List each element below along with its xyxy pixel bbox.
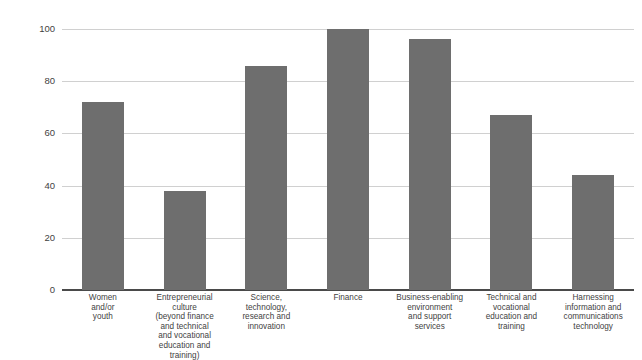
- x-axis-label-line: Finance: [309, 293, 387, 303]
- x-axis-label-line: Business-enabling: [391, 293, 469, 303]
- x-axis-label-line: training: [473, 322, 551, 332]
- x-axis-label: Womenand/oryouth: [62, 293, 144, 322]
- x-axis-label: Entrepreneurial culture(beyond financean…: [144, 293, 226, 360]
- bar[interactable]: [490, 115, 532, 290]
- x-axis-label-line: and vocational: [146, 331, 224, 341]
- x-axis-label-line: Harnessing: [554, 293, 632, 303]
- x-axis-label: Science,technology,research andinnovatio…: [225, 293, 307, 331]
- y-tick-label-0: 0: [9, 285, 55, 295]
- x-axis-label-line: Technical and: [473, 293, 551, 303]
- x-axis-label-line: Women: [64, 293, 142, 303]
- y-tick-label-40: 40: [9, 181, 55, 191]
- bar-slot: [225, 29, 307, 290]
- x-axis-label: Business-enablingenvironmentand supports…: [389, 293, 471, 331]
- bar[interactable]: [572, 175, 614, 290]
- x-axis-label-line: research and: [227, 312, 305, 322]
- bar-slot: [471, 29, 553, 290]
- y-tick-label-100: 100: [9, 24, 55, 34]
- x-axis-label-line: and/or: [64, 303, 142, 313]
- x-axis-label-line: information and: [554, 303, 632, 313]
- bar[interactable]: [409, 39, 451, 290]
- bar[interactable]: [164, 191, 206, 290]
- x-axis-label-line: services: [391, 322, 469, 332]
- x-axis-label-line: communications: [554, 312, 632, 322]
- bar-slot: [144, 29, 226, 290]
- x-axis-label-line: and support: [391, 312, 469, 322]
- bar-slot: [62, 29, 144, 290]
- x-axis-label-line: youth: [64, 312, 142, 322]
- x-axis-category-labels: Womenand/oryouthEntrepreneurial culture(…: [62, 293, 634, 360]
- x-axis-label-line: Science,: [227, 293, 305, 303]
- y-tick-label-80: 80: [9, 76, 55, 86]
- x-axis-label-line: vocational: [473, 303, 551, 313]
- x-axis-label-line: innovation: [227, 322, 305, 332]
- x-axis-label-line: and technical: [146, 322, 224, 332]
- bar-slot: [552, 29, 634, 290]
- x-axis-label: Technical andvocationaleducation andtrai…: [471, 293, 553, 331]
- y-tick-label-20: 20: [9, 233, 55, 243]
- bars-layer: [62, 29, 634, 290]
- x-axis-label-line: education and training): [146, 341, 224, 360]
- x-axis-label-line: environment: [391, 303, 469, 313]
- x-axis-label-line: (beyond finance: [146, 312, 224, 322]
- bar-slot: [307, 29, 389, 290]
- bar[interactable]: [245, 66, 287, 290]
- y-axis: 100 80 60 40 20 0: [0, 29, 55, 290]
- x-axis-label-line: education and: [473, 312, 551, 322]
- y-tick-label-60: 60: [9, 128, 55, 138]
- x-axis-label-line: technology,: [227, 303, 305, 313]
- bar-slot: [389, 29, 471, 290]
- x-axis-label-line: Entrepreneurial culture: [146, 293, 224, 312]
- x-axis-label: Harnessinginformation andcommunicationst…: [552, 293, 634, 331]
- bar[interactable]: [327, 29, 369, 290]
- x-axis-label-line: technology: [554, 322, 632, 332]
- x-axis-label: Finance: [307, 293, 389, 303]
- bar[interactable]: [82, 102, 124, 290]
